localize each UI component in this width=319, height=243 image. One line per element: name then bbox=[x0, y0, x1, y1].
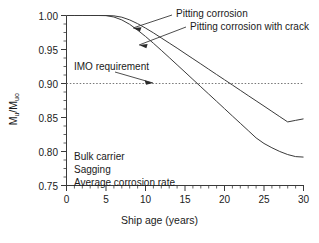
x-tick-label-20: 20 bbox=[214, 195, 235, 205]
x-tick-label-5: 5 bbox=[96, 195, 117, 205]
case-note-sagging: Sagging bbox=[74, 165, 111, 175]
x-tick-label-0: 0 bbox=[56, 195, 77, 205]
chart-figure: 1.00 0.95 0.90 0.85 0.80 0.75 0 5 10 15 … bbox=[0, 0, 319, 243]
y-tick-label-0.90: 0.90 bbox=[26, 80, 58, 90]
series-line-pitting-corrosion-with-crack bbox=[67, 16, 304, 158]
case-note-average-corrosion-rate: Average corrosion rate bbox=[74, 178, 175, 188]
annotation-pitting-corrosion: Pitting corrosion bbox=[176, 9, 248, 19]
leader-line-pitting-corrosion bbox=[133, 15, 172, 28]
y-axis-title: Mu/Muo bbox=[4, 78, 22, 148]
case-note-bulk-carrier: Bulk carrier bbox=[74, 152, 125, 162]
leader-lines bbox=[115, 15, 186, 83]
y-tick-label-0.95: 0.95 bbox=[26, 46, 58, 56]
y-tick-label-0.75: 0.75 bbox=[26, 182, 58, 192]
x-tick-label-15: 15 bbox=[175, 195, 196, 205]
y-axis-title-sep: /M bbox=[7, 101, 19, 113]
y-tick-label-1.00: 1.00 bbox=[26, 12, 58, 22]
y-axis-title-m1: M bbox=[7, 117, 19, 126]
x-tick-label-10: 10 bbox=[135, 195, 156, 205]
y-axis-title-sub1: u bbox=[13, 113, 20, 117]
x-tick-label-30: 30 bbox=[293, 195, 314, 205]
y-tick-label-0.85: 0.85 bbox=[26, 114, 58, 124]
y-axis-title-sub2: uo bbox=[13, 93, 20, 101]
annotation-imo-requirement: IMO requirement bbox=[74, 62, 149, 72]
y-tick-label-0.80: 0.80 bbox=[26, 148, 58, 158]
x-axis-title: Ship age (years) bbox=[0, 215, 319, 226]
x-tick-label-25: 25 bbox=[254, 195, 275, 205]
leader-arrowheads bbox=[133, 27, 153, 84]
leader-line-pitting-corrosion-with-crack bbox=[139, 27, 186, 45]
annotation-pitting-corrosion-with-crack: Pitting corrosion with crack bbox=[190, 22, 309, 32]
